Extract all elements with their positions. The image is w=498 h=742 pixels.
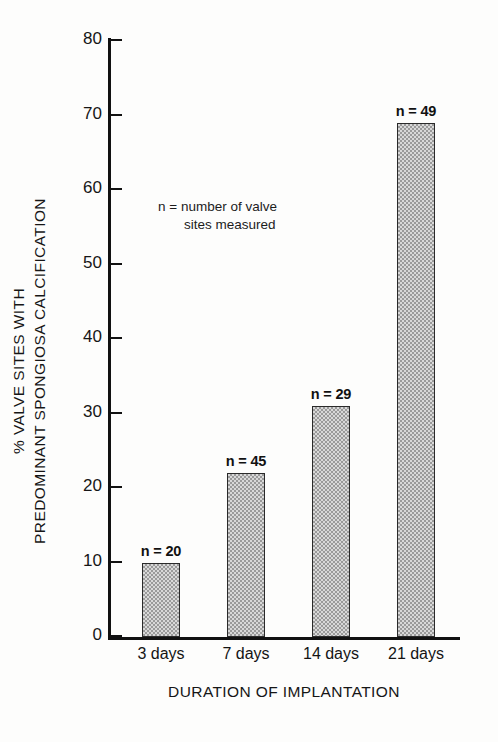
annotation-line-2: sites measured [158, 216, 277, 234]
bar-label-7-days: n = 45 [226, 453, 266, 469]
y-tick-10: 10 [111, 561, 122, 563]
bar-21-days[interactable]: n = 49 21 days [397, 123, 435, 637]
x-axis-title: DURATION OF IMPLANTATION [108, 683, 460, 701]
bar-label-21-days: n = 49 [396, 103, 436, 119]
annotation-line-1: n = number of valve [158, 198, 277, 216]
y-tick-label-10: 10 [83, 551, 102, 571]
y-tick-label-20: 20 [83, 476, 102, 496]
x-axis-line [108, 637, 460, 640]
y-tick-label-70: 70 [83, 104, 102, 124]
y-tick-80: 80 [111, 39, 122, 41]
bar-label-3-days: n = 20 [141, 543, 181, 559]
bar-3-days[interactable]: n = 20 3 days [142, 563, 180, 638]
y-axis-title-line-1: % VALVE SITES WITH [9, 198, 30, 544]
y-axis-line [108, 38, 111, 640]
y-tick-0: 0 [111, 635, 122, 637]
y-axis-title-line-2: PREDOMINANT SPONGIOSA CALCIFICATION [30, 198, 51, 544]
y-tick-20: 20 [111, 486, 122, 488]
y-tick-label-30: 30 [83, 402, 102, 422]
plot-area: 0 10 20 30 40 50 60 70 80 n = 20 3 days [108, 38, 460, 640]
bar-label-14-days: n = 29 [311, 386, 351, 402]
chart-figure: % VALVE SITES WITH PREDOMINANT SPONGIOSA… [0, 0, 498, 742]
y-tick-40: 40 [111, 337, 122, 339]
y-tick-70: 70 [111, 114, 122, 116]
chart-annotation: n = number of valve sites measured [158, 198, 277, 234]
bar-14-days[interactable]: n = 29 14 days [312, 406, 350, 637]
x-tick-label-7-days: 7 days [222, 645, 269, 663]
bar-7-days[interactable]: n = 45 7 days [227, 473, 265, 637]
y-tick-label-80: 80 [83, 29, 102, 49]
x-tick-label-21-days: 21 days [388, 645, 444, 663]
x-tick-label-3-days: 3 days [137, 645, 184, 663]
y-tick-label-60: 60 [83, 178, 102, 198]
y-tick-label-40: 40 [83, 327, 102, 347]
y-axis-title-wrapper: % VALVE SITES WITH PREDOMINANT SPONGIOSA… [0, 0, 60, 742]
y-tick-label-0: 0 [93, 625, 102, 645]
y-tick-label-50: 50 [83, 253, 102, 273]
y-tick-30: 30 [111, 412, 122, 414]
y-tick-50: 50 [111, 263, 122, 265]
y-axis-title: % VALVE SITES WITH PREDOMINANT SPONGIOSA… [9, 198, 51, 544]
x-tick-label-14-days: 14 days [303, 645, 359, 663]
y-tick-60: 60 [111, 188, 122, 190]
